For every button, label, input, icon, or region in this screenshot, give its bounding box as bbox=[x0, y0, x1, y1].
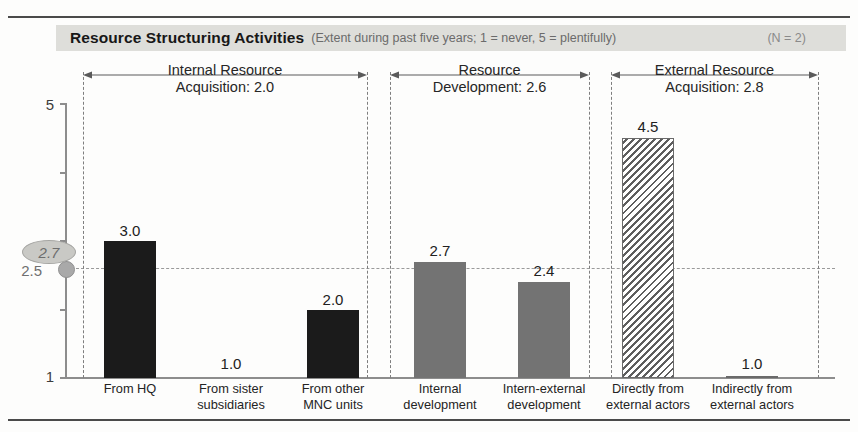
overall-mean-callout: 2.7 bbox=[22, 240, 76, 264]
plot-area: 5 1 2.5 2.7 Internal Resource Acquisi bbox=[0, 0, 858, 432]
group-separator-2-right bbox=[589, 72, 590, 378]
group-header-text: Internal Resource Acquisition: 2.0 bbox=[83, 62, 367, 96]
x-label-from-hq: From HQ bbox=[74, 381, 186, 397]
group-separator-1-left bbox=[83, 72, 84, 378]
bar-from-hq[interactable] bbox=[104, 241, 156, 378]
x-label-line2: development bbox=[488, 397, 600, 413]
x-label-internal-development: Internal development bbox=[384, 381, 496, 412]
group-header-line1: Internal Resource bbox=[83, 62, 367, 79]
bar-value-intern-external-development: 2.4 bbox=[504, 262, 584, 279]
bar-value-internal-development: 2.7 bbox=[400, 242, 480, 259]
y-tick-5 bbox=[60, 103, 66, 105]
x-label-from-other-mnc-units: From other MNC units bbox=[277, 381, 389, 412]
group-header-external-resource-acquisition: External Resource Acquisition: 2.8 bbox=[611, 62, 818, 96]
group-separator-1-right bbox=[367, 72, 368, 378]
bar-value-directly-from-external-actors: 4.5 bbox=[608, 118, 688, 135]
y-tick-1 bbox=[60, 377, 66, 379]
bar-value-indirectly-from-external-actors: 1.0 bbox=[712, 355, 792, 372]
x-label-directly-from-external-actors: Directly from external actors bbox=[592, 381, 704, 412]
x-label-intern-external-development: Intern-external development bbox=[488, 381, 600, 412]
x-label-line1: From HQ bbox=[74, 381, 186, 397]
y-tick-4 bbox=[60, 172, 66, 174]
y-axis-label-min: 1 bbox=[14, 368, 54, 385]
group-separator-3-right bbox=[818, 72, 819, 378]
x-label-line2: subsidiaries bbox=[175, 397, 287, 413]
y-axis-label-max: 5 bbox=[14, 96, 54, 113]
group-header-text: Resource Development: 2.6 bbox=[390, 62, 589, 96]
x-label-from-sister-subsidiaries: From sister subsidiaries bbox=[175, 381, 287, 412]
y-tick-2 bbox=[60, 309, 66, 311]
bar-intern-external-development[interactable] bbox=[518, 282, 570, 378]
bar-value-from-sister-subsidiaries: 1.0 bbox=[191, 355, 271, 372]
group-separator-2-left bbox=[390, 72, 391, 378]
x-label-line2: external actors bbox=[592, 397, 704, 413]
x-label-line2: external actors bbox=[696, 397, 808, 413]
group-header-line1: External Resource bbox=[611, 62, 818, 79]
group-header-text: External Resource Acquisition: 2.8 bbox=[611, 62, 818, 96]
x-label-indirectly-from-external-actors: Indirectly from external actors bbox=[696, 381, 808, 412]
bar-internal-development[interactable] bbox=[414, 262, 466, 378]
x-label-line2: MNC units bbox=[277, 397, 389, 413]
x-label-line1: From other bbox=[277, 381, 389, 397]
bar-value-from-hq: 3.0 bbox=[90, 222, 170, 239]
x-label-line1: Indirectly from bbox=[696, 381, 808, 397]
group-header-line2: Development: 2.6 bbox=[390, 79, 589, 96]
group-header-resource-development: Resource Development: 2.6 bbox=[390, 62, 589, 96]
reference-marker-dot bbox=[58, 261, 75, 278]
bar-from-other-mnc-units[interactable] bbox=[307, 310, 359, 378]
x-label-line2: development bbox=[384, 397, 496, 413]
group-header-line2: Acquisition: 2.8 bbox=[611, 79, 818, 96]
group-header-line2: Acquisition: 2.0 bbox=[83, 79, 367, 96]
group-header-line1: Resource bbox=[390, 62, 589, 79]
bar-value-from-other-mnc-units: 2.0 bbox=[293, 291, 373, 308]
bar-directly-from-external-actors[interactable] bbox=[622, 138, 674, 378]
group-header-internal-resource-acquisition: Internal Resource Acquisition: 2.0 bbox=[83, 62, 367, 96]
x-label-line1: Directly from bbox=[592, 381, 704, 397]
chart-page: Resource Structuring Activities (Extent … bbox=[0, 0, 858, 432]
y-axis-reference-label: 2.5 bbox=[2, 262, 42, 279]
x-label-line1: Internal bbox=[384, 381, 496, 397]
x-label-line1: From sister bbox=[175, 381, 287, 397]
bar-indirectly-from-external-actors[interactable] bbox=[726, 376, 778, 378]
x-label-line1: Intern-external bbox=[488, 381, 600, 397]
